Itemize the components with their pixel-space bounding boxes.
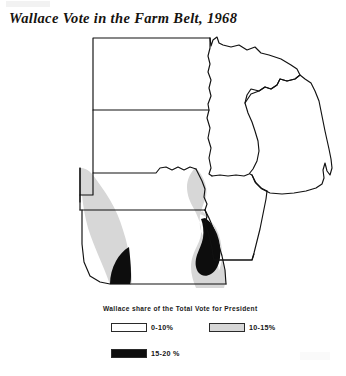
legend-label-0-10: 0-10% xyxy=(151,323,173,332)
legend-title: Wallace share of the Total Vote for Pres… xyxy=(103,305,258,312)
legend-swatch-15-20 xyxy=(111,349,147,358)
legend-swatch-10-15 xyxy=(209,323,245,332)
choropleth-map xyxy=(0,18,346,298)
map-legend: Wallace share of the Total Vote for Pres… xyxy=(0,300,346,376)
legend-label-15-20: 15-20 % xyxy=(151,349,180,358)
legend-label-10-15: 10-15% xyxy=(249,323,275,332)
legend-entry-10-15: 10-15% xyxy=(209,323,275,332)
map-svg xyxy=(0,18,346,298)
state-south-dakota xyxy=(93,110,212,173)
scan-artifact-top xyxy=(6,1,50,7)
state-wisconsin xyxy=(245,76,332,193)
legend-swatch-0-10 xyxy=(111,323,147,332)
legend-entry-15-20: 15-20 % xyxy=(111,349,180,358)
legend-entry-0-10: 0-10% xyxy=(111,323,173,332)
